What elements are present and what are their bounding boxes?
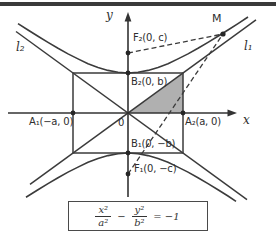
label-f2: F₂(0, c) <box>133 32 167 44</box>
point-dot-b1 <box>126 151 131 156</box>
point-dot-m <box>220 31 225 36</box>
label-asymptote-l2: l₂ <box>16 41 25 54</box>
origin-label: 0 <box>118 117 124 128</box>
point-dot-f2 <box>126 51 131 56</box>
equation-box: x² a² − y² b² = −1 <box>68 201 208 231</box>
y-axis-label: y <box>106 9 113 22</box>
equation-minus-operator: − <box>116 211 126 222</box>
fraction-y-numerator: y² <box>132 205 148 217</box>
y-axis-arrowhead-icon <box>125 12 132 22</box>
label-a1: A₁(−a, 0) <box>29 116 73 128</box>
label-b2: B₂(0, b) <box>131 76 167 88</box>
hyperbola-lower-branch <box>26 153 236 201</box>
fraction-x-denominator: a² <box>98 217 108 228</box>
label-f1: F₁(0, −c) <box>134 163 176 175</box>
fraction-x-numerator: x² <box>95 205 111 217</box>
label-asymptote-l1: l₁ <box>244 40 253 53</box>
hyperbola-figure: y x 0 F₂(0, c) F₁(0, −c) B₂(0, b) B₁(0, … <box>0 0 276 250</box>
label-a2: A₂(a, 0) <box>185 116 221 128</box>
label-b1: B₁(0, −b) <box>131 138 175 150</box>
label-m: M <box>212 13 221 25</box>
point-dot-a2 <box>181 111 186 116</box>
point-dot-a1 <box>71 111 76 116</box>
point-dot-f1 <box>126 172 131 177</box>
hyperbola-upper-branch <box>18 17 248 73</box>
x-axis-arrowhead-icon <box>228 110 238 117</box>
equation-rhs: = −1 <box>152 211 180 222</box>
x-axis-label: x <box>243 114 250 127</box>
fraction-x-term: x² a² <box>95 205 111 228</box>
asymptote-l1-line <box>30 20 256 184</box>
point-dot-b2 <box>126 71 131 76</box>
fraction-y-term: y² b² <box>132 205 148 228</box>
fraction-y-denominator: b² <box>134 217 144 228</box>
